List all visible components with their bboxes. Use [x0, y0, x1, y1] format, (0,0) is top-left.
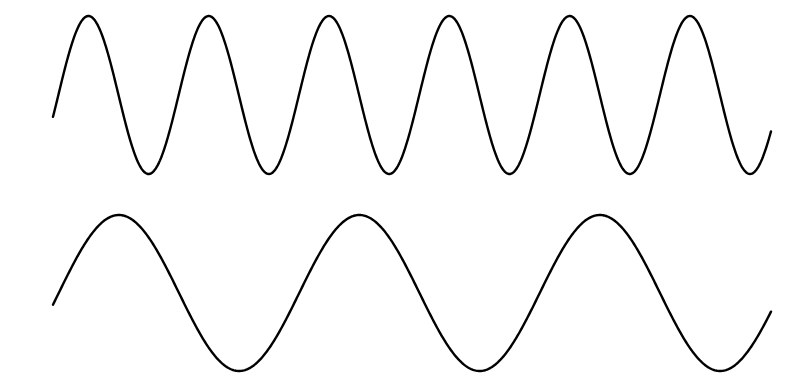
low-frequency-sine-wave: [53, 215, 771, 371]
high-frequency-sine-wave: [53, 16, 771, 174]
waves-diagram: [0, 0, 803, 374]
